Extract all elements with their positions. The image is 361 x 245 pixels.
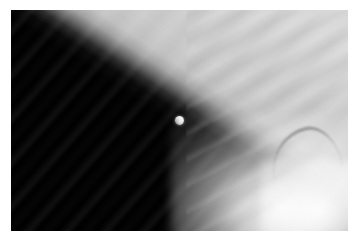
moon-disc xyxy=(175,116,184,125)
image-canvas xyxy=(0,0,361,245)
photograph xyxy=(11,10,348,231)
